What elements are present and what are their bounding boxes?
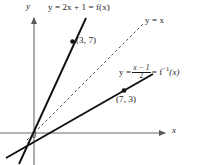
- plot-canvas: [0, 0, 206, 165]
- origin-label: 0: [32, 132, 36, 140]
- point-label-3-7: (3, 7): [76, 36, 96, 45]
- finv-prefix: y =: [119, 67, 131, 77]
- x-axis-label: x: [172, 126, 176, 135]
- function-inverse-graph-figure: y x 0 y = 2x + 1 = f(x) y = x y =x − 12=…: [0, 0, 206, 165]
- data-point-7-3: [122, 88, 127, 93]
- equation-label-f: y = 2x + 1 = f(x): [48, 3, 110, 12]
- y-axis-label: y: [26, 2, 30, 11]
- finv-argument: (x): [169, 67, 179, 77]
- function-line-f-inverse: [6, 74, 153, 158]
- finv-suffix: = f: [152, 67, 163, 77]
- finv-denominator: 2: [132, 73, 151, 81]
- equation-label-identity: y = x: [145, 16, 164, 25]
- point-label-7-3: (7, 3): [116, 95, 136, 104]
- equation-label-f-inverse: y =x − 12= f−1(x): [119, 64, 180, 81]
- finv-fraction: x − 12: [132, 64, 151, 81]
- data-point-3-7: [70, 39, 75, 44]
